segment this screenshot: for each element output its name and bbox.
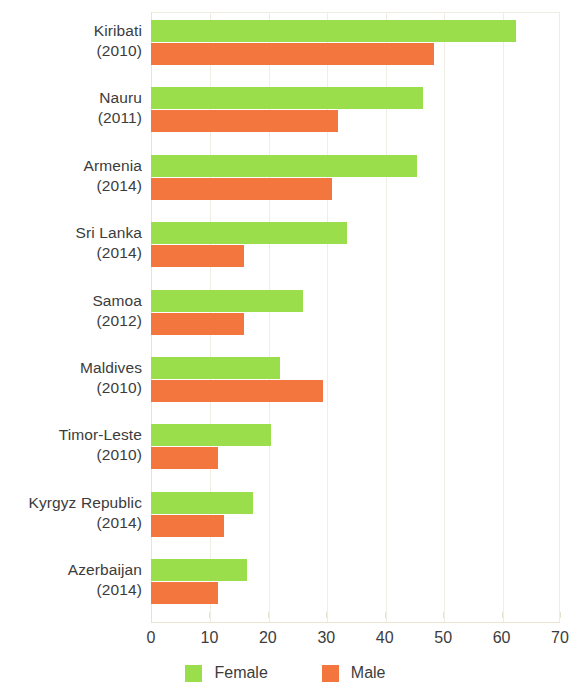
category-year: (2010) [0, 445, 142, 465]
legend-label-male: Male [351, 664, 386, 682]
category-label: Sri Lanka(2014) [0, 223, 142, 263]
bar-female[interactable] [151, 424, 271, 446]
category-year: (2012) [0, 311, 142, 331]
category-label: Kyrgyz Republic(2014) [0, 493, 142, 533]
x-axis-tick-label: 40 [365, 629, 405, 647]
category-label: Armenia(2014) [0, 156, 142, 196]
category-year: (2014) [0, 176, 142, 196]
x-axis-tick [385, 612, 386, 618]
bar-chart: 010203040506070Kiribati(2010)Nauru(2011)… [0, 0, 571, 694]
bar-female[interactable] [151, 222, 347, 244]
category-name: Sri Lanka [0, 223, 142, 243]
chart-legend: Female Male [0, 664, 571, 682]
bar-male[interactable] [151, 447, 218, 469]
bar-female[interactable] [151, 87, 423, 109]
category-label: Maldives(2010) [0, 358, 142, 398]
x-axis-tick-label: 70 [540, 629, 571, 647]
bar-male[interactable] [151, 110, 338, 132]
bar-group [151, 222, 560, 267]
category-name: Nauru [0, 88, 142, 108]
category-label: Azerbaijan(2014) [0, 560, 142, 600]
category-label: Kiribati(2010) [0, 21, 142, 61]
bar-group [151, 492, 560, 537]
category-name: Kyrgyz Republic [0, 493, 142, 513]
legend-swatch-female-icon [185, 665, 202, 682]
category-year: (2010) [0, 41, 142, 61]
bar-male[interactable] [151, 515, 224, 537]
category-label: Nauru(2011) [0, 88, 142, 128]
x-axis-tick-label: 30 [306, 629, 346, 647]
bar-group [151, 155, 560, 200]
bar-group [151, 424, 560, 469]
bar-female[interactable] [151, 20, 516, 42]
category-year: (2014) [0, 513, 142, 533]
x-axis-tick [151, 612, 152, 618]
x-axis-tick [326, 612, 327, 618]
bar-female[interactable] [151, 357, 280, 379]
bar-group [151, 559, 560, 604]
bar-male[interactable] [151, 313, 244, 335]
bar-group [151, 20, 560, 65]
x-axis-tick-label: 20 [248, 629, 288, 647]
legend-item-male[interactable]: Male [322, 664, 386, 682]
x-axis-tick [443, 612, 444, 618]
x-axis-tick-label: 50 [423, 629, 463, 647]
bar-female[interactable] [151, 155, 417, 177]
x-axis-tick [502, 612, 503, 618]
bar-group [151, 87, 560, 132]
bar-male[interactable] [151, 43, 434, 65]
x-axis-tick [268, 612, 269, 618]
x-axis-tick [560, 612, 561, 618]
category-year: (2010) [0, 378, 142, 398]
bar-male[interactable] [151, 178, 332, 200]
bar-male[interactable] [151, 582, 218, 604]
category-label: Timor-Leste(2010) [0, 425, 142, 465]
bar-male[interactable] [151, 380, 323, 402]
bar-group [151, 290, 560, 335]
category-year: (2014) [0, 243, 142, 263]
bar-female[interactable] [151, 559, 247, 581]
bar-group [151, 357, 560, 402]
x-axis-tick-label: 60 [482, 629, 522, 647]
x-axis-tick-label: 10 [189, 629, 229, 647]
category-name: Samoa [0, 291, 142, 311]
legend-label-female: Female [214, 664, 267, 682]
x-axis-tick [209, 612, 210, 618]
bar-female[interactable] [151, 290, 303, 312]
category-year: (2014) [0, 580, 142, 600]
bar-female[interactable] [151, 492, 253, 514]
legend-swatch-male-icon [322, 665, 339, 682]
category-label: Samoa(2012) [0, 291, 142, 331]
category-name: Maldives [0, 358, 142, 378]
category-name: Kiribati [0, 21, 142, 41]
legend-item-female[interactable]: Female [185, 664, 267, 682]
category-name: Azerbaijan [0, 560, 142, 580]
category-name: Timor-Leste [0, 425, 142, 445]
bar-male[interactable] [151, 245, 244, 267]
category-year: (2011) [0, 108, 142, 128]
category-name: Armenia [0, 156, 142, 176]
x-axis-tick-label: 0 [131, 629, 171, 647]
